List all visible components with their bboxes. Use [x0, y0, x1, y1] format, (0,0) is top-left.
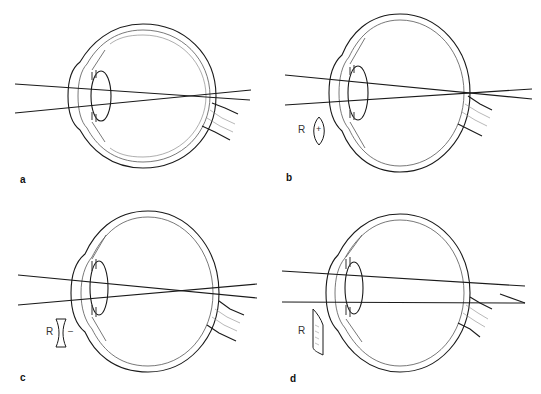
lens-sign-c: – — [68, 326, 73, 336]
eye-diagram-d — [270, 197, 540, 394]
lens-symbol-b: R — [298, 124, 305, 135]
panel-label-b: b — [286, 172, 292, 183]
lens-symbol-c: R — [46, 326, 53, 337]
eye-diagram-a — [0, 0, 270, 197]
concave-lens-icon — [55, 318, 67, 348]
panel-c: R – c — [0, 197, 270, 394]
panel-d: R d — [270, 197, 540, 394]
eye-diagram-c — [0, 197, 270, 394]
eye-diagram-b — [270, 0, 540, 197]
cylindrical-lens-icon — [311, 307, 325, 357]
panel-label-d: d — [290, 373, 296, 384]
panel-b: R + b — [270, 0, 540, 197]
panel-label-a: a — [20, 174, 26, 185]
lens-sign-b: + — [316, 124, 321, 134]
panel-a: a — [0, 0, 270, 197]
panel-label-c: c — [20, 372, 26, 383]
lens-symbol-d: R — [298, 325, 305, 336]
